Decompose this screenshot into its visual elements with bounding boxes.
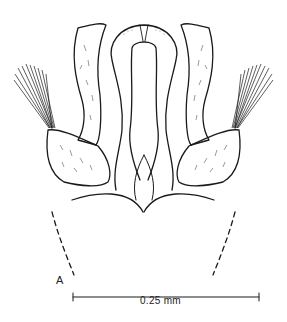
- right-paramere: [181, 24, 213, 145]
- scale-bar-label: 0.25 mm: [140, 295, 181, 306]
- panel-label: A: [56, 274, 63, 286]
- right-setal-brush: [232, 64, 273, 129]
- right-dashed-outline: [213, 212, 235, 275]
- drawing: [0, 0, 287, 322]
- left-paramere: [74, 24, 106, 145]
- left-setal-brush: [14, 64, 55, 129]
- inner-median-loop: [130, 42, 159, 180]
- left-dashed-outline: [52, 212, 74, 275]
- figure: [0, 0, 287, 322]
- central-valve: [134, 155, 153, 200]
- central-median-lobe: [111, 25, 177, 190]
